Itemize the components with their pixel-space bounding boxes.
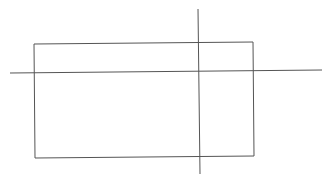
- rectangle-shape: [34, 42, 254, 158]
- diagram-canvas: [0, 0, 331, 182]
- vertical-line: [198, 9, 200, 174]
- horizontal-line: [10, 70, 322, 73]
